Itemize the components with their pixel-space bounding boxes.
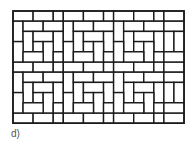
brick — [144, 93, 154, 113]
brick — [53, 62, 63, 72]
brick — [13, 42, 23, 62]
brick — [144, 42, 154, 62]
brick — [164, 103, 184, 113]
brick — [124, 103, 144, 113]
brick — [43, 93, 53, 113]
brick — [114, 21, 124, 41]
brick — [73, 82, 83, 102]
brick — [174, 31, 184, 51]
brick — [83, 62, 103, 72]
brick — [73, 21, 93, 31]
brick — [104, 103, 114, 113]
brick — [124, 21, 144, 31]
brick — [114, 93, 124, 113]
brick — [53, 52, 63, 62]
brick — [154, 103, 164, 113]
brick — [53, 82, 63, 102]
brick — [33, 82, 53, 92]
brick — [124, 31, 134, 51]
brick — [43, 21, 63, 31]
brick — [63, 21, 73, 41]
brick — [104, 11, 114, 21]
brick — [93, 93, 103, 113]
brick — [104, 31, 114, 51]
brick — [33, 113, 53, 123]
brick — [134, 42, 144, 52]
brick — [114, 62, 134, 72]
brick — [164, 31, 174, 51]
brick — [114, 42, 124, 62]
brick — [63, 72, 73, 92]
brick — [154, 52, 164, 62]
brick — [13, 21, 23, 41]
brick — [23, 21, 43, 31]
brick — [53, 103, 63, 113]
brick — [154, 113, 164, 123]
brick — [83, 31, 103, 41]
brick — [73, 72, 93, 82]
brick — [73, 103, 93, 113]
brick — [53, 113, 63, 123]
brick — [63, 62, 83, 72]
brick-pattern — [0, 0, 195, 126]
brick — [23, 82, 33, 102]
brick — [13, 11, 33, 21]
brick — [134, 31, 154, 41]
brick — [93, 21, 113, 31]
brick — [144, 21, 164, 31]
brick — [83, 42, 93, 52]
brick — [93, 42, 103, 62]
brick — [13, 72, 23, 92]
brick — [33, 93, 43, 103]
brick — [114, 113, 134, 123]
brick — [23, 72, 43, 82]
brick — [63, 113, 83, 123]
brick — [154, 31, 164, 51]
brick — [73, 31, 83, 51]
brick — [124, 52, 144, 62]
brick — [134, 82, 154, 92]
brick — [63, 42, 73, 62]
brick — [83, 93, 93, 103]
brick — [53, 11, 63, 21]
brick — [134, 93, 144, 103]
brick — [164, 82, 174, 102]
brick — [104, 113, 114, 123]
brick — [83, 82, 103, 92]
brick — [104, 82, 114, 102]
brick — [13, 113, 33, 123]
brick — [164, 62, 184, 72]
brick — [134, 11, 154, 21]
brick — [144, 72, 164, 82]
brick — [33, 11, 53, 21]
brick — [33, 31, 53, 41]
brick — [164, 21, 184, 31]
brick — [23, 103, 43, 113]
brick — [114, 11, 134, 21]
brick — [13, 62, 33, 72]
brick — [124, 82, 134, 102]
brick — [114, 72, 124, 92]
brick — [164, 11, 184, 21]
brick — [134, 113, 154, 123]
brick — [93, 72, 113, 82]
brick — [13, 93, 23, 113]
brick — [104, 62, 114, 72]
brick — [154, 82, 164, 102]
brick — [124, 72, 144, 82]
brick — [134, 62, 154, 72]
brick — [23, 31, 33, 51]
figure-label: d) — [11, 128, 20, 139]
brick — [104, 52, 114, 62]
brick — [83, 113, 103, 123]
brick — [154, 11, 164, 21]
brick — [33, 42, 43, 52]
brick — [164, 113, 184, 123]
brick — [63, 11, 83, 21]
brick — [174, 82, 184, 102]
brick — [43, 42, 53, 62]
brick — [43, 72, 63, 82]
brick — [83, 11, 103, 21]
brick — [73, 52, 93, 62]
brick — [63, 93, 73, 113]
